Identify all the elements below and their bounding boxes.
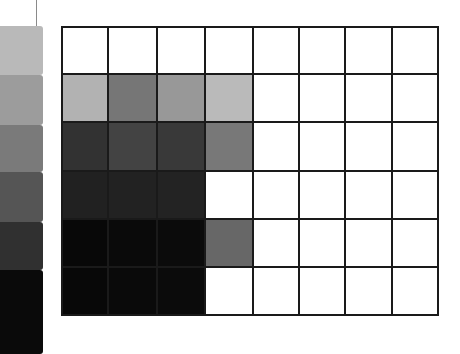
gray-band-2 <box>0 75 40 125</box>
grid-vline-2 <box>156 26 158 316</box>
grid-cell-r4-c1 <box>62 171 108 219</box>
gray-band-4 <box>0 172 40 222</box>
grid-vline-1 <box>107 26 109 316</box>
grid-cell-r5-c6 <box>299 219 345 267</box>
grid-cell-r2-c2 <box>108 74 157 122</box>
grid-vline-4 <box>252 26 254 316</box>
grid-cell-r1-c6 <box>299 27 345 74</box>
grid-cell-r3-c3 <box>157 122 205 171</box>
grid-vline-7 <box>391 26 393 316</box>
grid-cell-r2-c4 <box>205 74 253 122</box>
gray-band-3 <box>0 125 40 172</box>
grid-cell-r1-c3 <box>157 27 205 74</box>
grid-cell-r6-c1 <box>62 267 108 315</box>
grid-cell-r6-c6 <box>299 267 345 315</box>
grid-hline-5 <box>62 266 439 268</box>
gray-band-6 <box>0 270 40 354</box>
grid-cell-r2-c1 <box>62 74 108 122</box>
grid-cell-r5-c1 <box>62 219 108 267</box>
grid-cell-r6-c2 <box>108 267 157 315</box>
grid-cell-r5-c8 <box>392 219 438 267</box>
grid-cell-r4-c8 <box>392 171 438 219</box>
grid-vline-3 <box>204 26 206 316</box>
grayscale-strip <box>0 26 40 354</box>
grid-cell-r1-c1 <box>62 27 108 74</box>
grid-hline-4 <box>62 218 439 220</box>
grid-cell-r3-c6 <box>299 122 345 171</box>
grid-hline-1 <box>62 73 439 75</box>
grid-cell-r4-c6 <box>299 171 345 219</box>
grid-hline-6 <box>62 314 439 316</box>
grid-cell-r4-c2 <box>108 171 157 219</box>
grid-cell-r6-c8 <box>392 267 438 315</box>
grid-cell-r2-c3 <box>157 74 205 122</box>
grid-cell-r1-c7 <box>345 27 392 74</box>
grid-cell-r6-c5 <box>253 267 299 315</box>
grid-cell-r3-c4 <box>205 122 253 171</box>
grid-cell-r3-c7 <box>345 122 392 171</box>
grid-vline-0 <box>61 26 63 316</box>
grid-cell-r1-c5 <box>253 27 299 74</box>
grid-vline-6 <box>344 26 346 316</box>
grid-cell-r1-c4 <box>205 27 253 74</box>
gray-band-1 <box>0 26 40 75</box>
grid-hline-3 <box>62 170 439 172</box>
grid-hline-0 <box>62 26 439 28</box>
grid-vline-8 <box>437 26 439 316</box>
grid-cell-r4-c7 <box>345 171 392 219</box>
grid-cell-r3-c8 <box>392 122 438 171</box>
grid-cell-r6-c3 <box>157 267 205 315</box>
strip-top-line <box>36 0 37 27</box>
grid-cell-r3-c2 <box>108 122 157 171</box>
grid-cell-r5-c5 <box>253 219 299 267</box>
grid-cell-r3-c5 <box>253 122 299 171</box>
grid-cell-r2-c6 <box>299 74 345 122</box>
grid-cell-r4-c5 <box>253 171 299 219</box>
grid-cell-r2-c5 <box>253 74 299 122</box>
grid-hline-2 <box>62 121 439 123</box>
grid-cell-r1-c2 <box>108 27 157 74</box>
grid-cell-r5-c7 <box>345 219 392 267</box>
grid-cell-r2-c7 <box>345 74 392 122</box>
shaded-grid <box>62 27 438 315</box>
grid-cell-r4-c4 <box>205 171 253 219</box>
grid-cell-r6-c4 <box>205 267 253 315</box>
grid-cell-r5-c4 <box>205 219 253 267</box>
grid-cell-r5-c3 <box>157 219 205 267</box>
grid-cell-r5-c2 <box>108 219 157 267</box>
grid-cell-r4-c3 <box>157 171 205 219</box>
grid-vline-5 <box>298 26 300 316</box>
grid-cell-r1-c8 <box>392 27 438 74</box>
grid-cell-r3-c1 <box>62 122 108 171</box>
grid-cell-r6-c7 <box>345 267 392 315</box>
grid-cell-r2-c8 <box>392 74 438 122</box>
gray-band-5 <box>0 222 40 270</box>
